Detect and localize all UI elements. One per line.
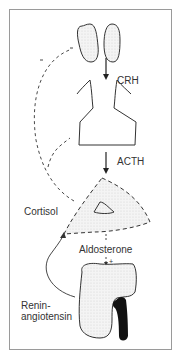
angiotensin-label: angiotensin — [21, 311, 72, 322]
cortisol-label: Cortisol — [24, 206, 58, 217]
acth-label: ACTH — [117, 156, 144, 167]
crh-label: CRH — [117, 75, 139, 86]
acth-arrow-icon — [103, 152, 109, 174]
renin-angiotensin-arrow-icon — [46, 232, 75, 297]
cortisol-feedback-icon — [34, 48, 74, 201]
plus-sign: + — [109, 256, 113, 267]
renin-label: Renin- — [21, 300, 50, 311]
kidney-icon — [79, 263, 136, 340]
adrenal-gland-icon — [64, 178, 150, 234]
aldosterone-label: Aldosterone — [79, 244, 132, 255]
crh-arrow-icon — [103, 58, 109, 80]
pituitary-icon — [77, 80, 136, 145]
hypothalamus-icon — [77, 24, 120, 62]
